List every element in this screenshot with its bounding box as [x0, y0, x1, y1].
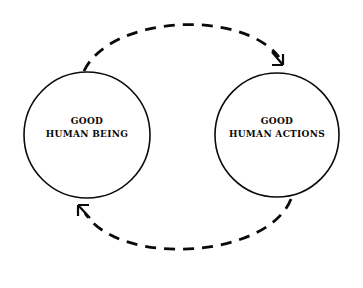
- diagram-canvas: GOOD HUMAN BEING GOOD HUMAN ACTIONS: [0, 0, 363, 288]
- node-label-good-human-being: GOOD HUMAN BEING: [46, 115, 129, 141]
- node-label-good-human-actions: GOOD HUMAN ACTIONS: [229, 115, 325, 141]
- cycle-diagram-svg: [0, 0, 363, 288]
- node-label-line-1: GOOD: [229, 115, 325, 128]
- top-dashed-arc: [84, 25, 279, 71]
- node-label-line-2: HUMAN ACTIONS: [229, 128, 325, 141]
- bottom-dashed-arc: [85, 199, 291, 249]
- node-label-line-2: HUMAN BEING: [46, 128, 129, 141]
- bottom-arrowhead-icon: [78, 205, 90, 218]
- node-label-line-1: GOOD: [46, 115, 129, 128]
